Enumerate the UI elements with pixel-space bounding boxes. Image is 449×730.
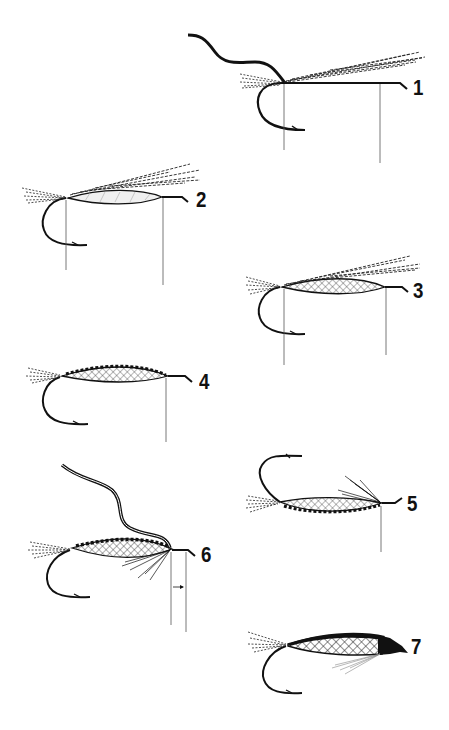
hook-shank-icon [280,83,407,89]
step-3: 3 [230,240,449,380]
step-number-1: 1 [413,77,423,99]
hook-bend-icon [258,83,305,130]
step-3-illustration [230,240,449,380]
step-6-illustration [0,450,230,640]
crosshatch-body-icon [282,279,385,294]
step-4-illustration [0,350,230,450]
step-5: 5 [230,440,449,560]
head-icon [378,635,408,655]
hook-bend-icon [43,198,87,245]
thread-icon [188,35,285,83]
hook-bend-icon [263,646,302,693]
step-number-4: 4 [199,371,209,393]
step-number-7: 7 [411,636,421,658]
step-number-6: 6 [201,544,211,566]
step-6: 6 [0,450,230,640]
step-2: 2 [0,150,230,300]
step-number-2: 2 [196,189,206,211]
step-1-illustration [180,0,449,170]
hook-bend-icon [260,456,302,502]
step-7: 7 [230,620,449,730]
step-number-3: 3 [413,280,423,302]
step-1: 1 [180,0,449,170]
step-2-illustration [0,150,230,300]
step-4: 4 [0,350,230,450]
step-number-5: 5 [407,493,417,515]
